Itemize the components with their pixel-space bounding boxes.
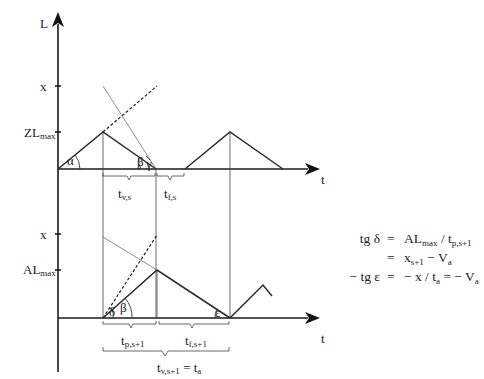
top-dashed-extension — [103, 86, 157, 132]
bottom-chart: δ β ε tp,s+1 tf,s+1 tv,s+1 = ta — [103, 235, 272, 376]
brace-tp — [103, 321, 156, 328]
equation-2-rhs: xs+1 − Va — [404, 250, 452, 267]
tick-almax: ALmax — [23, 262, 56, 278]
equations: tg δ = ALmax / tp,s+1 = xs+1 − Va − tg ε… — [349, 231, 478, 286]
equation-1-rhs: ALmax / tp,s+1 — [404, 231, 472, 248]
label-total: tv,s+1 = ta — [157, 360, 201, 376]
angle-gamma: γ — [145, 156, 152, 171]
label-tv-s: tv,s — [118, 186, 132, 202]
vertical-guides — [103, 132, 230, 318]
top-y-ticks: x ZLmax — [24, 79, 61, 141]
bottom-x-axis-label: t — [321, 331, 325, 346]
top-x-axis-label: t — [321, 172, 325, 187]
angle-beta-top: β — [137, 154, 144, 169]
equation-3-rhs: − x / ta = − Va — [404, 269, 479, 286]
brace-total — [103, 347, 229, 356]
angle-delta: δ — [109, 304, 115, 319]
equation-3-lhs: − tg ε — [349, 269, 380, 284]
y-axis-label: L — [40, 16, 48, 31]
bottom-next-segment — [230, 285, 272, 318]
label-tf-s: tf,s — [164, 186, 177, 202]
brace-tf-s — [157, 173, 184, 180]
top-triangle-2 — [185, 132, 283, 169]
equation-2-eq: = — [387, 250, 395, 265]
diagram-canvas: L t t x ZLmax x ALmax — [0, 0, 484, 379]
top-x-axis: t — [58, 163, 325, 187]
brace-tf — [159, 321, 229, 328]
equation-1: tg δ = ALmax / tp,s+1 — [360, 231, 472, 248]
equation-3-eq: = — [387, 269, 395, 284]
angle-beta-bottom: β — [120, 300, 127, 315]
tick-x-top: x — [40, 79, 47, 94]
tick-x-bottom: x — [40, 227, 47, 242]
brace-tv-s — [103, 173, 155, 180]
label-tf: tf,s+1 — [185, 333, 207, 349]
tick-zlmax: ZLmax — [24, 125, 56, 141]
label-tp: tp,s+1 — [121, 333, 144, 349]
equation-1-eq: = — [387, 231, 395, 246]
angle-alpha: α — [67, 153, 74, 168]
equation-2: = xs+1 − Va — [387, 250, 452, 267]
bottom-y-ticks: x ALmax — [23, 227, 61, 278]
equation-3: − tg ε = − x / ta = − Va — [349, 269, 478, 286]
top-chart: α β γ tv,s tf,s — [58, 86, 283, 202]
equation-1-lhs: tg δ — [360, 231, 380, 246]
bottom-thin-line — [103, 237, 157, 270]
angle-alpha-arc — [75, 155, 80, 169]
angle-epsilon: ε — [215, 305, 221, 320]
